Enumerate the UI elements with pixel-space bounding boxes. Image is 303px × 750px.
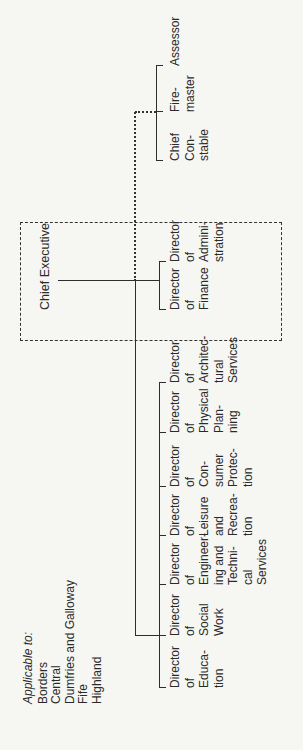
region-highland: Highland — [90, 657, 105, 704]
tick-consumer — [159, 486, 166, 487]
tick-assessor — [156, 65, 163, 66]
dept-finance: Director of Finance — [168, 267, 212, 310]
tick-firemaster — [156, 111, 163, 112]
tick-architectural — [159, 382, 166, 383]
joint-services-bracket — [156, 65, 157, 161]
tick-finance — [159, 309, 166, 310]
tick-chief-constable — [156, 160, 163, 161]
spine-to-department-bracket — [135, 635, 159, 636]
dotted-link-vertical — [134, 112, 136, 281]
region-fife: Fife — [76, 684, 91, 704]
dept-social-work: Director of Social Work — [168, 594, 226, 636]
tick-social-work — [159, 635, 166, 636]
dotted-link-horizontal — [135, 111, 156, 113]
tick-engineering — [159, 584, 166, 585]
dept-administration: Director of Admini- stration — [168, 220, 226, 262]
finance-admin-connector — [135, 280, 159, 281]
dept-leisure: Director of Leisure and Recrea- tion — [168, 493, 255, 536]
applicable-heading: Applicable to: — [21, 632, 36, 704]
tick-leisure — [159, 535, 166, 536]
chief-executive-group-box — [20, 222, 282, 341]
chief-constable-label: Chief Con- stable — [168, 129, 212, 161]
main-spine-line — [135, 280, 136, 636]
region-central: Central — [49, 665, 64, 704]
dept-education: Director of Educa- tion — [168, 646, 226, 688]
finance-admin-bracket — [159, 261, 160, 310]
firemaster-label: Fire- master — [168, 75, 197, 112]
chief-executive-label: Chief Executive — [38, 223, 53, 310]
tick-education — [159, 687, 166, 688]
dept-physical-planning: Director of Physical Plan- ning — [168, 388, 241, 433]
tick-administration — [159, 261, 166, 262]
tick-physical — [159, 432, 166, 433]
dept-architectural: Director of Architec- tural Services — [168, 336, 241, 383]
assessor-label: Assessor — [168, 17, 183, 66]
chief-executive-connector — [58, 280, 135, 281]
org-chart: Applicable to: Borders Central Dumfries … — [0, 0, 303, 750]
dept-consumer: Director of Con- sumer Protec- tion — [168, 445, 255, 487]
dept-engineering: Director of Engineer- ing and Techni- ca… — [168, 533, 270, 585]
